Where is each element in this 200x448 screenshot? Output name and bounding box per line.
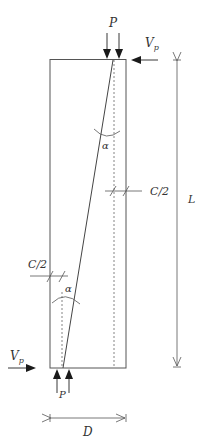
top-load-arrows (103, 33, 123, 59)
bottom-angle-label: α (65, 283, 72, 294)
top-shear-label: Vp (145, 36, 159, 52)
depth-label: D (82, 425, 93, 439)
bottom-shear-label: Vp (10, 349, 24, 365)
top-angle-arc (94, 129, 120, 136)
length-label: L (187, 193, 195, 206)
left-half-c-label: C/2 (28, 258, 47, 271)
diagonal-strut (63, 60, 113, 368)
top-shear-arrow (131, 56, 158, 64)
bottom-shear-arrow (8, 364, 36, 372)
bottom-load-label: P (58, 389, 66, 400)
left-half-c-marker (30, 271, 68, 282)
top-angle-label: α (102, 140, 109, 151)
right-half-c-marker (105, 186, 142, 196)
top-load-label: P (108, 16, 118, 30)
bottom-angle-arc (52, 297, 80, 304)
column-strut-diagram: P Vp α C/2 L C/2 α Vp P (0, 0, 200, 448)
right-half-c-label: C/2 (150, 185, 169, 198)
